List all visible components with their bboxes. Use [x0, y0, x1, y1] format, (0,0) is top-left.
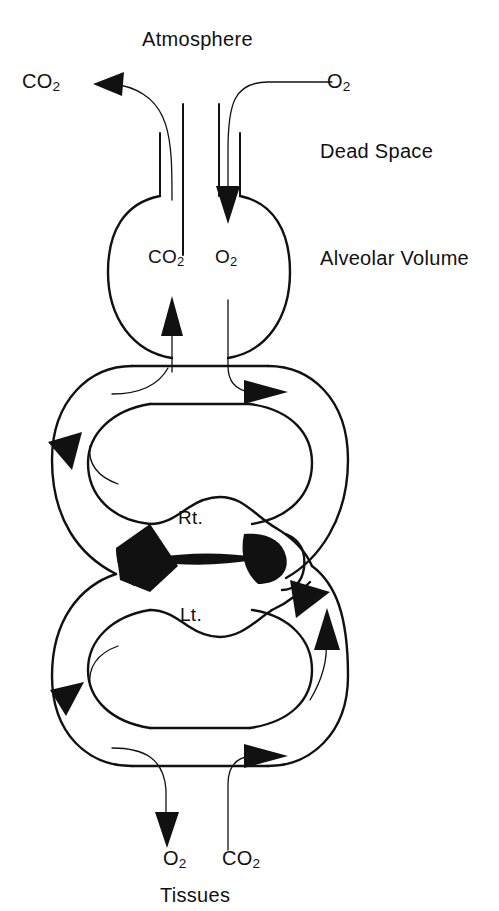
label-alveolar-volume: Alveolar Volume: [320, 247, 469, 270]
diagram-canvas: .stroke-thick { fill:none; stroke:#11111…: [0, 0, 499, 911]
alveolar-capillary-exchange: [161, 296, 228, 372]
label-left-heart: Lt.: [180, 604, 202, 626]
pulmonary-circulation-loop: [48, 366, 348, 578]
label-o2-to-tissues: O2: [163, 847, 186, 871]
label-right-heart: Rt.: [178, 507, 203, 529]
alveolar-o2-delivery: [228, 366, 288, 404]
label-tissues: Tissues: [160, 884, 230, 907]
o2-inhalation-flow: [216, 82, 332, 224]
arrow-down-icon: [155, 812, 179, 848]
label-o2-inhaled: O2: [327, 70, 350, 94]
label-alveolus-co2: CO2: [148, 246, 184, 269]
heart-crossing-arrows: [290, 580, 330, 618]
label-co2-exhaled: CO2: [22, 70, 60, 94]
label-atmosphere: Atmosphere: [142, 28, 253, 51]
pulmonary-co2-pickup-guide: [112, 368, 168, 394]
arrow-down-icon: [216, 186, 240, 224]
arrow-down-right-icon: [290, 580, 330, 618]
label-co2-from-tissues: CO2: [222, 847, 260, 871]
label-alveolus-o2: O2: [215, 246, 237, 269]
arrow-up-icon: [161, 296, 183, 336]
arrow-up-icon: [314, 608, 340, 650]
label-dead-space: Dead Space: [320, 140, 433, 163]
alveolus: [108, 196, 290, 358]
heart-chamber-junction: [116, 524, 304, 592]
gas-exchange-diagram: .stroke-thick { fill:none; stroke:#11111…: [0, 0, 499, 911]
arrow-left-icon: [93, 72, 124, 96]
tissue-exchange: [112, 744, 288, 850]
arrow-right-icon: [244, 380, 288, 404]
